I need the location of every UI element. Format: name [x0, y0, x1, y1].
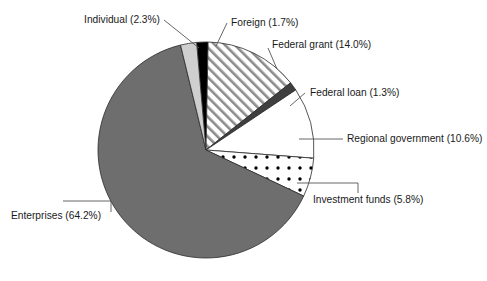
label-individual: Individual (2.3%)	[84, 14, 160, 25]
pie-slices-group	[98, 42, 314, 258]
pie-chart-figure: Individual (2.3%) Foreign (1.7%) Federal…	[0, 0, 487, 281]
label-enterprises: Enterprises (64.2%)	[11, 210, 101, 221]
pie-chart-svg: Individual (2.3%) Foreign (1.7%) Federal…	[0, 0, 487, 281]
label-investment-funds: Investment funds (5.8%)	[313, 194, 423, 205]
label-federal-loan: Federal loan (1.3%)	[310, 87, 399, 98]
label-regional-government: Regional government (10.6%)	[347, 133, 482, 144]
label-federal-grant: Federal grant (14.0%)	[272, 39, 371, 50]
label-foreign: Foreign (1.7%)	[231, 17, 298, 28]
